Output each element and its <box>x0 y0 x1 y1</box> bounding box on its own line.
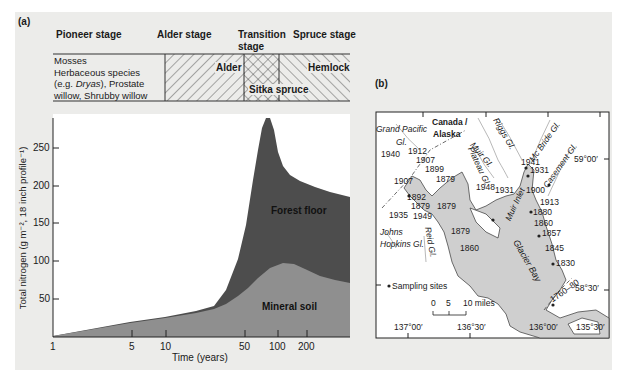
year-1931a: 1931 <box>495 185 514 195</box>
year-1900: 1900 <box>526 185 545 195</box>
year-1931b: 1931 <box>530 165 549 175</box>
year-1879c: 1879 <box>437 201 456 211</box>
scale-0: 0 <box>431 298 436 308</box>
year-1948: 1948 <box>476 182 495 192</box>
year-1899: 1899 <box>425 164 444 174</box>
lon-137-00: 137°00′ <box>394 322 423 332</box>
year-1940: 1940 <box>381 149 400 159</box>
scale-10-miles: 10 miles <box>463 298 495 308</box>
year-1935: 1935 <box>389 210 408 220</box>
year-1879a: 1879 <box>436 174 455 184</box>
lat-58-30: 58°30′ <box>575 283 599 293</box>
lon-136-00: 136°00′ <box>529 322 558 332</box>
year-1830: 1830 <box>556 258 575 268</box>
year-1949: 1949 <box>413 211 432 221</box>
hopkins-gl-label: Hopkins Gl. <box>380 239 424 249</box>
year-1845: 1845 <box>545 243 564 253</box>
year-1860b: 1860 <box>534 218 553 228</box>
lon-135-30: 135°30′ <box>576 322 605 332</box>
year-1907b: 1907 <box>394 176 413 186</box>
year-1879b: 1879 <box>411 201 430 211</box>
scale-5: 5 <box>446 298 451 308</box>
canada-label: Canada / <box>432 117 467 127</box>
johns-label: Johns <box>380 227 403 237</box>
year-1860a: 1860 <box>460 243 479 253</box>
alaska-label: Alaska <box>433 129 460 139</box>
lon-136-30: 136°30′ <box>457 322 486 332</box>
year-1913: 1913 <box>540 197 559 207</box>
year-1879d: 1879 <box>451 226 470 236</box>
legend-sampling-sites: Sampling sites <box>392 281 447 291</box>
grand-pacific-label: Grand Pacific <box>376 124 427 134</box>
lat-59-00: 59°00′ <box>574 154 598 164</box>
year-1880: 1880 <box>533 207 552 217</box>
grand-pacific-gl-label: Gl. <box>396 137 407 147</box>
year-1857: 1857 <box>542 228 561 238</box>
